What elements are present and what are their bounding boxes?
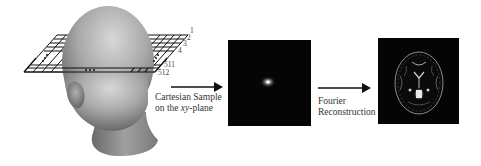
cartesian-sample-line2-suffix: -plane [189,103,213,113]
cartesian-sample-line2-prefix: on the [155,103,181,113]
k-space-image [228,40,311,126]
fourier-reconstruction-label: Fourier Reconstruction [318,96,376,118]
fourier-label-line2: Reconstruction [318,107,376,117]
cartesian-sample-line1: Cartesian Sample [155,92,222,102]
grid-line-label-2: 2 [187,34,191,42]
arrow-cartesian-sample [171,82,223,92]
diagram-canvas: 1 2 3 4 511 512 Cartesian Sample on the … [0,0,481,166]
grid-line-label-512: 512 [158,69,169,77]
grid-line-label-3: 3 [183,40,187,48]
reconstructed-brain-panel [378,38,459,124]
grid-line-label-4: 4 [178,47,182,55]
head-model [62,6,158,156]
arrow-fourier-reconstruction [318,83,371,93]
cartesian-sample-label: Cartesian Sample on the xy-plane [155,92,222,114]
fourier-label-line1: Fourier [318,96,346,106]
k-space-panel [228,40,311,126]
brain-mri-image [378,38,459,124]
